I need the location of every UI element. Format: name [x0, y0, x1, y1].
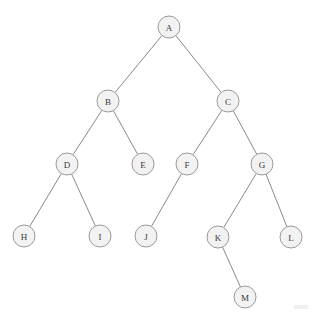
tree-graph: ABCDEFGHIJKLM: [0, 0, 317, 322]
tree-node-e[interactable]: E: [132, 153, 154, 175]
tree-node-a[interactable]: A: [158, 16, 180, 38]
node-label-e: E: [140, 160, 146, 170]
node-label-i: I: [99, 232, 102, 242]
tree-node-m[interactable]: M: [234, 286, 256, 308]
node-label-k: K: [215, 233, 222, 243]
tree-node-f[interactable]: F: [176, 153, 198, 175]
tree-edge-d-h: [30, 173, 62, 226]
tree-node-j[interactable]: J: [135, 225, 157, 247]
node-label-d: D: [64, 160, 71, 170]
tree-node-c[interactable]: C: [217, 90, 239, 112]
tree-node-b[interactable]: B: [97, 90, 119, 112]
tree-edge-f-j: [151, 174, 181, 227]
node-label-h: H: [21, 232, 28, 242]
tree-edge-a-c: [176, 36, 221, 93]
tree-node-d[interactable]: D: [56, 153, 78, 175]
corner-artifact: [294, 305, 308, 309]
tree-edge-g-k: [224, 173, 257, 227]
tree-edge-k-m: [223, 247, 241, 287]
tree-edge-g-l: [266, 174, 287, 227]
tree-node-h[interactable]: H: [13, 225, 35, 247]
node-label-c: C: [225, 97, 231, 107]
node-label-j: J: [144, 232, 148, 242]
node-label-l: L: [288, 233, 294, 243]
tree-edge-d-i: [72, 174, 96, 226]
node-label-m: M: [241, 293, 249, 303]
tree-node-l[interactable]: L: [280, 226, 302, 248]
tree-diagram-canvas: ABCDEFGHIJKLM: [0, 0, 317, 322]
tree-node-g[interactable]: G: [251, 153, 273, 175]
tree-node-i[interactable]: I: [89, 225, 111, 247]
node-layer: ABCDEFGHIJKLM: [13, 16, 302, 308]
tree-node-k[interactable]: K: [207, 226, 229, 248]
tree-edge-c-g: [233, 111, 257, 155]
node-label-f: F: [184, 160, 189, 170]
tree-edge-c-f: [193, 110, 222, 155]
tree-edge-a-b: [115, 35, 162, 92]
node-label-g: G: [259, 160, 266, 170]
tree-edge-b-e: [113, 111, 137, 155]
node-label-b: B: [105, 97, 111, 107]
node-label-a: A: [166, 23, 173, 33]
tree-edge-b-d: [73, 110, 102, 155]
